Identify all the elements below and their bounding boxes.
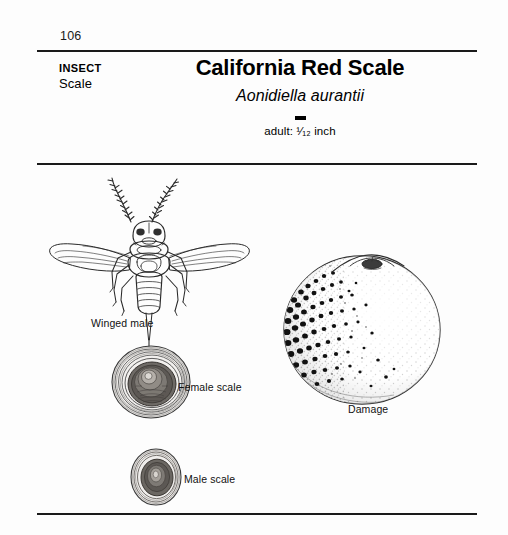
caption-male-scale: Male scale [184, 473, 235, 485]
caption-winged-male: Winged male [91, 317, 153, 329]
caption-female-scale: Female scale [178, 381, 242, 393]
male-scale-figure [131, 449, 181, 505]
footer-rule [37, 513, 477, 515]
caption-damage: Damage [348, 403, 388, 415]
field-guide-page: 106 INSECT Scale California Red Scale Ao… [0, 0, 508, 535]
illustration-plate [0, 0, 508, 535]
damage-figure [284, 255, 441, 406]
